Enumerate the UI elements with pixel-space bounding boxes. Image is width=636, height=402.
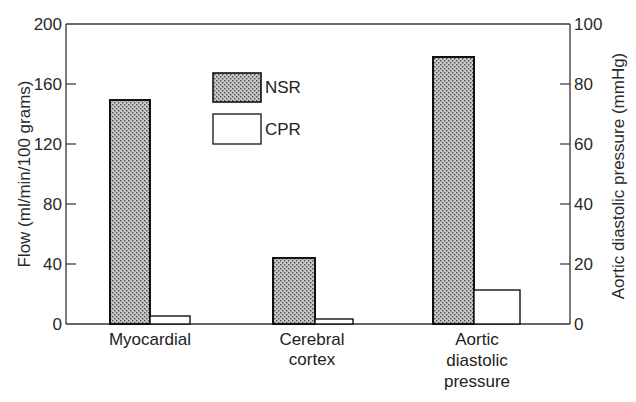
legend-label-nsr: NSR (265, 78, 301, 97)
right-y-tick-labels: 0 20 40 60 80 100 (574, 15, 602, 334)
right-y-ticks (560, 84, 570, 264)
right-tick-label: 40 (574, 195, 593, 214)
bar-group-myocardial (110, 100, 190, 324)
right-tick-label: 80 (574, 75, 593, 94)
left-y-tick-labels: 0 40 80 120 160 200 (34, 15, 62, 334)
legend-swatch-nsr (213, 73, 261, 102)
category-label-aortic-line2: diastolic (446, 351, 508, 370)
category-label-myocardial: Myocardial (109, 330, 191, 349)
bar-nsr-myocardial (110, 100, 150, 324)
bar-group-cerebral-cortex (273, 258, 353, 324)
left-tick-label: 200 (34, 15, 62, 34)
right-tick-label: 60 (574, 135, 593, 154)
category-label-cerebral-line1: Cerebral (279, 330, 344, 349)
left-tick-label: 40 (43, 255, 62, 274)
bar-cpr-aortic (474, 290, 520, 324)
x-category-labels: Myocardial Cerebral cortex Aortic diasto… (109, 330, 510, 391)
left-tick-label: 80 (43, 195, 62, 214)
right-tick-label: 0 (574, 315, 583, 334)
left-tick-label: 120 (34, 135, 62, 154)
bar-chart: 0 40 80 120 160 200 0 20 40 60 80 100 Fl… (0, 0, 636, 402)
legend-label-cpr: CPR (265, 120, 301, 139)
right-tick-label: 20 (574, 255, 593, 274)
legend: NSR CPR (213, 73, 301, 144)
bar-group-aortic (433, 57, 520, 324)
bar-nsr-aortic (433, 57, 474, 324)
right-tick-label: 100 (574, 15, 602, 34)
right-axis-title: Aortic diastolic pressure (mmHg) (609, 53, 628, 300)
left-tick-label: 0 (53, 315, 62, 334)
category-label-aortic-line3: pressure (444, 372, 510, 391)
left-tick-label: 160 (34, 75, 62, 94)
bar-cpr-myocardial (150, 316, 190, 324)
left-y-ticks (66, 84, 76, 264)
left-axis-title: Flow (ml/min/100 grams) (15, 80, 34, 267)
legend-swatch-cpr (213, 114, 261, 144)
bar-nsr-cerebral (273, 258, 315, 324)
bar-cpr-cerebral (315, 319, 353, 324)
category-label-aortic-line1: Aortic (455, 330, 499, 349)
category-label-cerebral-line2: cortex (289, 350, 336, 369)
